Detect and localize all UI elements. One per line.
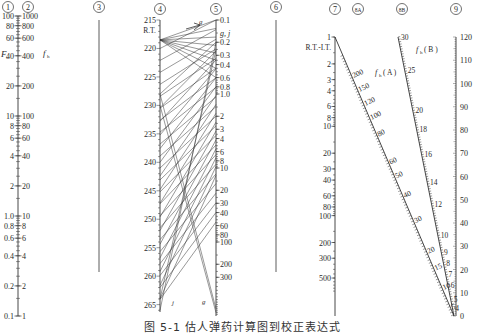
- axis-4-tick-label: 235: [144, 130, 156, 139]
- axis-7-tick-label: 80: [323, 203, 331, 212]
- axis-1-tick-label: 8: [10, 122, 14, 131]
- axis-8A-tick-label: 200: [351, 67, 365, 80]
- axis-2-tick-label: 600: [22, 34, 34, 43]
- axis-5-tick-label: 2: [220, 112, 224, 121]
- axis-1-tick-label: 10: [6, 112, 14, 121]
- axis-2-tick-label: 80: [22, 122, 30, 131]
- svg-text:h: h: [379, 73, 382, 78]
- axis-8B-tick-label: 6: [451, 281, 455, 290]
- axis-2-tick-label: 8: [22, 222, 26, 231]
- axis-7-tick-label: 3: [327, 76, 331, 85]
- axis-1-tick-label: 0.8: [4, 222, 14, 231]
- svg-text:g, j: g, j: [220, 29, 231, 38]
- axis-7-tick-label: 1: [327, 33, 331, 42]
- axis-4-tick-label: 245: [144, 187, 156, 196]
- svg-text:h: h: [420, 50, 423, 55]
- axis-1-2: [15, 16, 22, 316]
- svg-text:s: s: [6, 55, 8, 60]
- axis-5-tick-label: 300: [220, 273, 232, 282]
- axis-5-tick-label: 40: [220, 209, 228, 218]
- axis-4-tick-label: 225: [144, 73, 156, 82]
- axis-5-tick-label: 1.0: [220, 90, 230, 99]
- axis-4-tick-label: 260: [144, 272, 156, 281]
- svg-text:8B: 8B: [399, 7, 406, 13]
- axis-9-circle-label: 9: [451, 4, 462, 15]
- svg-text:j: j: [171, 299, 174, 307]
- axis-1-tick-label: 0.2: [4, 282, 14, 291]
- axis-7-tick-label: 4: [327, 87, 331, 96]
- axis-1-tick-label: 2: [10, 182, 14, 191]
- axis-8B-tick-label: 25: [408, 66, 416, 75]
- axis-5-tick-label: 200: [220, 260, 232, 269]
- axis-2-tick-label: 20: [22, 182, 30, 191]
- svg-text:9: 9: [454, 5, 458, 14]
- axis-2-circle-label: 2: [23, 2, 34, 13]
- axis-4-circle-label: 4: [155, 4, 166, 15]
- axis-2-tick-label: 40: [22, 152, 30, 161]
- axis-7-tick-label: 40: [323, 176, 331, 185]
- axis-8B-tick-label: 20: [416, 106, 424, 115]
- axis-1-tick-label: 100: [2, 12, 14, 21]
- svg-text:6: 6: [274, 3, 278, 12]
- axis-7-tick-label: 200: [319, 239, 331, 248]
- axis-5-tick-label: 6: [220, 148, 224, 157]
- axis-4-tick-label: 220: [144, 44, 156, 53]
- axis-2-tick-label: 6: [22, 234, 26, 243]
- axis-9-tick-label: 100: [460, 80, 472, 89]
- axis-2-tick-label: 10: [22, 212, 30, 221]
- axis-7-tick-label: 60: [323, 192, 331, 201]
- axis-8B-tick-label: 14: [430, 178, 438, 187]
- svg-text:R.T.: R.T.: [143, 26, 156, 35]
- svg-text:3: 3: [97, 3, 101, 12]
- svg-text:2: 2: [26, 3, 30, 12]
- axis-4-tick-label: 265: [144, 301, 156, 310]
- axis-9-tick-label: 50: [460, 196, 468, 205]
- nomograph-diagram: 1001000808006060040400202001010088066044…: [0, 0, 485, 335]
- axis-2-tick-label: 200: [22, 82, 34, 91]
- axis-5: [216, 20, 220, 316]
- svg-text:R.T.-I.T.: R.T.-I.T.: [305, 43, 331, 52]
- axis-9-tick-label: 90: [460, 103, 468, 112]
- axis-8A-tick-label: 150: [357, 81, 371, 94]
- axis-5-tick-label: 100: [220, 238, 232, 247]
- axis-9-tick-label: 20: [460, 266, 468, 275]
- axis-5-tick-label: 0.6: [220, 74, 230, 83]
- axis-9-tick-label: 80: [460, 126, 468, 135]
- axis-8B-tick-label: 7: [449, 270, 453, 279]
- axis-4-tick-label: 230: [144, 101, 156, 110]
- labels-layer: 1001000808006060040400202001010088066044…: [0, 2, 472, 322]
- axis-8B-tick-label: 4: [455, 304, 459, 313]
- svg-text:7: 7: [333, 5, 337, 14]
- axis-5-tick-label: 0.2: [220, 38, 230, 47]
- axis-8A-circle-label: 8A: [353, 4, 364, 15]
- axis-2-tick-label: 60: [22, 134, 30, 143]
- axis-5-tick-label: 4: [220, 135, 224, 144]
- svg-text:8A: 8A: [355, 7, 362, 13]
- axis-4-tick-label: 250: [144, 215, 156, 224]
- axis-8B-circle-label: 8B: [397, 4, 408, 15]
- axis-1-tick-label: 1.0: [4, 212, 14, 221]
- axis-7-tick-label: 20: [323, 149, 331, 158]
- axis-5-tick-label: 30: [220, 199, 228, 208]
- axis-4-tick-label: 215: [144, 16, 156, 25]
- axis-4: [157, 20, 161, 312]
- axis-5-tick-label: 0.4: [220, 61, 230, 70]
- axis-8B-tick-label: 30: [401, 33, 409, 42]
- axis-5-tick-label: 10: [220, 164, 228, 173]
- svg-text:g: g: [202, 298, 206, 306]
- axis-1-tick-label: 80: [6, 22, 14, 31]
- axis-8B-tick-label: 9: [444, 248, 448, 257]
- axis-3-circle-label: 3: [94, 2, 105, 13]
- svg-text:1: 1: [6, 3, 10, 12]
- axis-8B-tick-label: 10: [441, 231, 449, 240]
- svg-text:g: g: [199, 18, 203, 26]
- axis-8B-tick-label: 18: [419, 125, 427, 134]
- axis-9-tick-label: 70: [460, 149, 468, 158]
- axis-5-tick-label: 20: [220, 186, 228, 195]
- axis-1-tick-label: 0.6: [4, 234, 14, 243]
- axis-6-circle-label: 6: [271, 2, 282, 13]
- axis-2-tick-label: 800: [22, 22, 34, 31]
- axis-8B-tick-label: 16: [425, 150, 433, 159]
- axis-5-tick-label: 3: [220, 125, 224, 134]
- axis-7-tick-label: 500: [319, 274, 331, 283]
